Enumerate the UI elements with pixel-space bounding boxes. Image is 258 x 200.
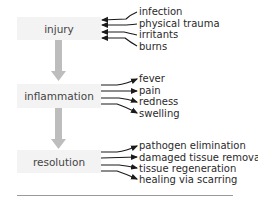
outcome-label: pathogen elimination (139, 140, 246, 151)
cause-label: infection (139, 6, 182, 17)
outcome-label: tissue regeneration (139, 163, 236, 174)
outgoing-arrows-resolution (101, 146, 137, 179)
cause-label: burns (139, 41, 167, 52)
down-arrow-icon (51, 40, 66, 81)
down-arrow-icon (51, 108, 66, 149)
incoming-arrows-injury (102, 12, 137, 46)
sign-label: swelling (139, 108, 180, 119)
inflammation-process-diagram: injury inflammation resolution (0, 0, 258, 200)
sign-label: redness (139, 96, 178, 107)
cause-label: physical trauma (139, 18, 220, 29)
outcome-label: healing via scarring (139, 174, 237, 185)
sign-label: pain (139, 85, 161, 96)
bottom-divider (17, 195, 233, 196)
outgoing-arrows-inflammation (101, 79, 137, 113)
outcome-label: damaged tissue removal (139, 152, 258, 163)
sign-label: fever (139, 73, 165, 84)
cause-label: irritants (139, 29, 178, 40)
